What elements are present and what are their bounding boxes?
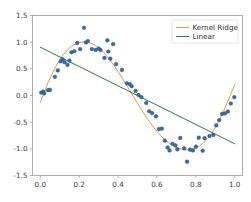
scatter-point [144,101,148,105]
scatter-point [201,149,205,153]
scatter-point [168,149,172,153]
scatter-point [154,114,158,118]
scatter-point [217,118,221,122]
y-tick-label: 0.5 [16,64,27,73]
scatter-point [130,84,134,88]
x-tick-label: 0.0 [35,180,47,189]
scatter-point [99,48,103,52]
chart-figure: 0.00.20.40.60.81.01.51.00.50.0-0.5-1.0-1… [0,0,251,202]
scatter-point [68,59,72,63]
scatter-point [106,38,110,42]
scatter-point [82,26,86,30]
scatter-point [176,148,180,152]
scatter-point [86,39,90,43]
scatter-point [214,124,218,128]
scatter-point [160,127,164,131]
scatter-point [203,136,207,140]
scatter-point [174,144,178,148]
y-tick-label: 0.0 [16,91,28,100]
scatter-point [140,95,144,99]
x-tick-label: 0.8 [190,180,202,189]
scatter-point [111,42,115,46]
x-tick-label: 0.2 [73,180,84,189]
scatter-point [66,63,70,67]
scatter-point [232,95,236,99]
x-tick-label: 0.6 [151,180,163,189]
scatter-point [56,69,60,73]
scatter-point [178,136,182,140]
scatter-point [75,41,79,45]
legend-label-linear: Linear [193,32,215,41]
scatter-point [106,50,110,54]
scatter-point [226,110,230,114]
scatter-plot-canvas: 0.00.20.40.60.81.01.51.00.50.0-0.5-1.0-1… [0,0,251,202]
scatter-point [150,111,154,115]
scatter-point [191,149,195,153]
scatter-point [185,160,189,164]
scatter-point [48,88,52,92]
scatter-point [182,146,186,150]
x-tick-label: 1.0 [229,180,241,189]
scatter-point [208,134,212,138]
scatter-point [42,92,46,96]
scatter-point [120,68,124,72]
scatter-point [229,102,233,106]
scatter-point [90,47,94,51]
x-tick-label: 0.4 [112,180,124,189]
scatter-point [211,133,215,137]
scatter-point [194,145,198,149]
scatter-point [108,57,112,61]
scatter-point [163,139,167,143]
scatter-point [114,62,118,66]
y-tick-label: -1.5 [13,171,27,180]
scatter-point [78,47,82,51]
legend-label-kernel-ridge: Kernel Ridge [193,23,239,32]
scatter-point [63,60,67,64]
y-tick-label: -1.0 [13,144,27,153]
y-tick-label: 1.0 [16,38,28,47]
y-tick-label: 1.5 [16,11,27,20]
scatter-point [53,75,57,79]
scatter-point [134,89,138,93]
y-tick-label: -0.5 [13,118,27,127]
scatter-point [103,56,107,60]
scatter-point [197,136,201,140]
scatter-point [72,49,76,53]
